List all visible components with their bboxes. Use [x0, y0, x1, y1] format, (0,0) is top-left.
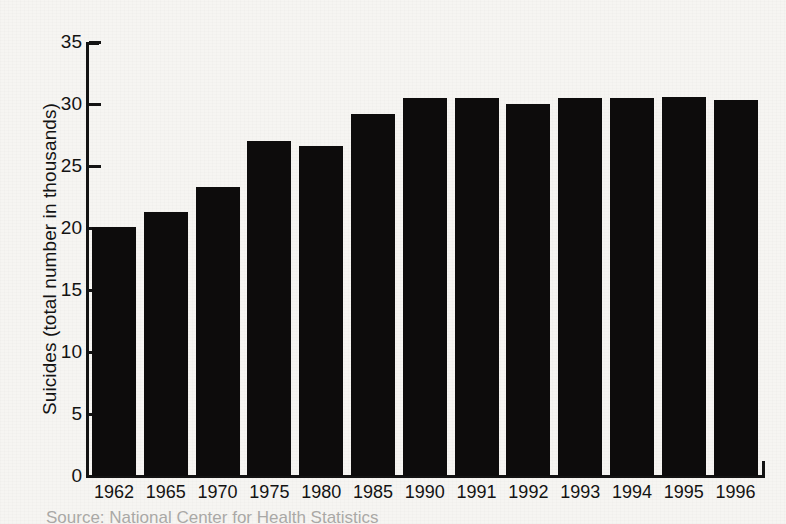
bar — [196, 187, 240, 476]
bar — [610, 98, 654, 476]
y-axis-tick-label: 5 — [42, 404, 82, 423]
bar-chart-figure: Suicides (total number in thousands) 353… — [0, 0, 786, 524]
bar — [247, 141, 291, 476]
y-axis-tick-label: 25 — [42, 156, 82, 175]
x-axis-tick-labels: 1962196519701975198019851990199119921993… — [92, 483, 764, 509]
y-axis-tick-label: 30 — [42, 94, 82, 113]
bar — [92, 227, 136, 476]
x-axis-tick-label: 1996 — [708, 483, 764, 501]
bar-series — [92, 0, 764, 524]
x-axis-tick-label: 1985 — [345, 483, 401, 501]
bar — [403, 98, 447, 476]
bar — [299, 146, 343, 476]
bar — [558, 98, 602, 476]
bar — [662, 97, 706, 476]
x-axis-tick-label: 1994 — [604, 483, 660, 501]
x-axis-tick-label: 1993 — [552, 483, 608, 501]
x-axis-tick-label: 1975 — [241, 483, 297, 501]
source-note: Source: National Center for Health Stati… — [46, 508, 379, 524]
y-axis-tick-label: 15 — [42, 280, 82, 299]
x-axis-tick-label: 1962 — [86, 483, 142, 501]
y-axis-tick-label: 0 — [42, 466, 82, 485]
x-axis-tick-label: 1992 — [500, 483, 556, 501]
y-axis-tick-label: 35 — [42, 32, 82, 51]
bar — [144, 212, 188, 476]
bar — [506, 104, 550, 476]
x-axis-tick-label: 1995 — [656, 483, 712, 501]
y-axis-tick-label: 20 — [42, 218, 82, 237]
y-axis-tick-label: 10 — [42, 342, 82, 361]
x-axis-tick-label: 1970 — [190, 483, 246, 501]
x-axis-tick-label: 1990 — [397, 483, 453, 501]
x-axis-tick-label: 1980 — [293, 483, 349, 501]
bar — [455, 98, 499, 476]
bar — [714, 100, 758, 476]
x-axis-tick-label: 1991 — [449, 483, 505, 501]
y-axis-tick-labels: 35302520151050 — [38, 0, 82, 524]
bar — [351, 114, 395, 476]
x-axis-tick-label: 1965 — [138, 483, 194, 501]
